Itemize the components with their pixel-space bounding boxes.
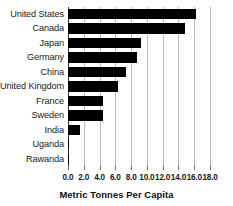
tick-mark: [100, 166, 101, 170]
category-label: India: [0, 125, 64, 135]
category-label: Rawanda: [0, 154, 64, 164]
tick-mark: [68, 166, 69, 170]
bar: [68, 96, 103, 106]
bar: [68, 81, 118, 91]
bar-row: [68, 79, 210, 93]
bar-row: [68, 123, 210, 137]
bar-row: [68, 21, 210, 35]
bar: [68, 9, 196, 19]
x-axis-title: Metric Tonnes Per Capita: [0, 189, 233, 200]
bar: [68, 110, 103, 120]
bar-chart: United StatesCanadaJapanGermanyChinaUnit…: [0, 0, 233, 206]
category-label: Sweden: [0, 110, 64, 120]
bar-row: [68, 108, 210, 122]
tick-mark: [147, 166, 148, 170]
tick-mark: [178, 166, 179, 170]
bar-row: [68, 152, 210, 166]
tick-label: 18.0: [199, 173, 221, 182]
category-label: China: [0, 67, 64, 77]
bar: [68, 125, 80, 135]
category-label: Canada: [0, 23, 64, 33]
category-label: United States: [0, 9, 64, 19]
bar-row: [68, 50, 210, 64]
category-label: Germany: [0, 52, 64, 62]
bar-row: [68, 65, 210, 79]
bar-row: [68, 137, 210, 151]
bar: [68, 52, 137, 62]
category-label: Japan: [0, 38, 64, 48]
plot-area: [68, 7, 210, 166]
tick-mark: [131, 166, 132, 170]
tick-mark: [194, 166, 195, 170]
bar-row: [68, 36, 210, 50]
tick-mark: [84, 166, 85, 170]
bar: [68, 139, 69, 149]
bar: [68, 38, 141, 48]
category-label: Uganda: [0, 139, 64, 149]
bar-row: [68, 94, 210, 108]
tick-mark: [163, 166, 164, 170]
bar: [68, 154, 69, 164]
bar-row: [68, 7, 210, 21]
tick-mark: [210, 166, 211, 170]
bar: [68, 23, 185, 33]
tick-mark: [115, 166, 116, 170]
gridline: [210, 7, 211, 166]
category-label: France: [0, 96, 64, 106]
category-label: United Kingdom: [0, 81, 64, 91]
bar: [68, 67, 126, 77]
